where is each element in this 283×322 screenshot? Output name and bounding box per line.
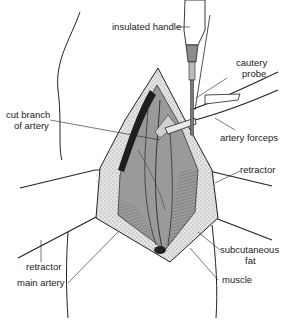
label-cut-branch-1: cut branch bbox=[6, 110, 50, 120]
label-muscle: muscle bbox=[222, 275, 252, 285]
body-outline-left bbox=[58, 12, 80, 160]
retractor-right-bottom bbox=[215, 218, 272, 240]
cautery-probe bbox=[191, 80, 194, 135]
leg-outline-left bbox=[67, 232, 69, 318]
insulated-handle bbox=[184, 0, 205, 45]
label-retractor-left: retractor bbox=[26, 262, 61, 272]
label-retractor-right: retractor bbox=[240, 165, 275, 175]
label-subcutaneous-2: fat bbox=[245, 256, 256, 266]
label-insulated-handle: insulated handle bbox=[112, 22, 181, 32]
label-cautery-probe-2: probe bbox=[242, 69, 266, 79]
label-main-artery: main artery bbox=[17, 278, 65, 288]
label-cut-branch-2: of artery bbox=[14, 121, 49, 131]
retractor-left-bottom bbox=[18, 215, 100, 258]
label-subcutaneous-1: subcutaneous bbox=[220, 245, 279, 255]
label-artery-forceps: artery forceps bbox=[220, 133, 278, 143]
leg-outline-right bbox=[212, 225, 217, 318]
label-cautery-probe-1: cautery bbox=[236, 58, 267, 68]
